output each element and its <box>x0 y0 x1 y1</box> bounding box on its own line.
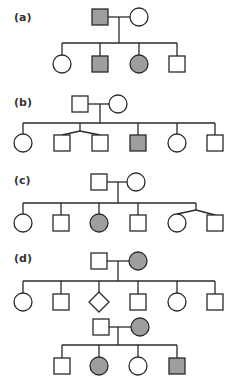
panel-label-c: (c) <box>14 174 31 187</box>
panel-2-child-2-unaffected-square-icon <box>53 215 69 231</box>
panel-0-child-3-affected-circle-icon <box>130 55 148 73</box>
panel-1-child-6-unaffected-square-icon <box>207 135 223 151</box>
panel-2-child-1-unaffected-circle-icon <box>14 214 32 232</box>
panel-1-parent-father-unaffected-square-icon <box>72 96 88 112</box>
panel-1-child-3-unaffected-square-icon <box>92 135 108 151</box>
panel-3-child-4-unaffected-square-icon <box>130 294 146 310</box>
panel-label-b: (b) <box>14 96 32 109</box>
panel-3-child-2-affected-circle-icon <box>90 357 108 375</box>
panel-3-child-5-unaffected-circle-icon <box>168 293 186 311</box>
panel-3-child-3-unaffected-circle-icon <box>129 357 147 375</box>
pedigree-diagram: (a) (b) (c) (d) <box>0 0 230 384</box>
panel-2-parent-mother-unaffected-circle-icon <box>127 173 145 191</box>
panel-1-parent-mother-unaffected-circle-icon <box>109 95 127 113</box>
panel-1-child-4-affected-square-icon <box>130 135 146 151</box>
panel-1-child-2-unaffected-square-icon <box>54 135 70 151</box>
panel-label-a: (a) <box>14 11 31 24</box>
panel-1-child-1-unaffected-circle-icon <box>14 134 32 152</box>
panel-2-child-5-unaffected-circle-icon <box>168 214 186 232</box>
panel-3-parent-mother-affected-circle-icon <box>129 252 147 270</box>
panel-3-child-3-unaffected-diamond-icon <box>89 292 109 312</box>
panel-2-child-3-affected-circle-icon <box>90 214 108 232</box>
panel-3-child-1-unaffected-circle-icon <box>14 293 32 311</box>
panel-3-child-4-affected-square-icon <box>169 358 185 374</box>
panel-2-parent-father-unaffected-square-icon <box>91 174 107 190</box>
pedigree-line <box>177 210 196 214</box>
panel-0-child-4-unaffected-square-icon <box>169 56 185 72</box>
panel-3-child-1-unaffected-square-icon <box>54 358 70 374</box>
panel-0-parent-father-affected-square-icon <box>92 9 108 25</box>
panel-label-d: (d) <box>14 252 32 265</box>
panel-3-parent-mother-affected-circle-icon <box>131 318 149 336</box>
pedigree-line <box>196 210 215 215</box>
panel-0-child-2-affected-square-icon <box>92 56 108 72</box>
panel-0-child-1-unaffected-circle-icon <box>53 55 71 73</box>
panel-3-child-6-unaffected-square-icon <box>207 294 223 310</box>
panel-0-parent-mother-unaffected-circle-icon <box>130 8 148 26</box>
panel-3-parent-father-unaffected-square-icon <box>93 319 109 335</box>
panel-3-child-2-unaffected-square-icon <box>53 294 69 310</box>
panel-2-child-4-unaffected-square-icon <box>130 215 146 231</box>
panel-2-child-6-unaffected-square-icon <box>207 215 223 231</box>
panel-3-parent-father-unaffected-square-icon <box>91 253 107 269</box>
panel-1-child-5-unaffected-circle-icon <box>168 134 186 152</box>
